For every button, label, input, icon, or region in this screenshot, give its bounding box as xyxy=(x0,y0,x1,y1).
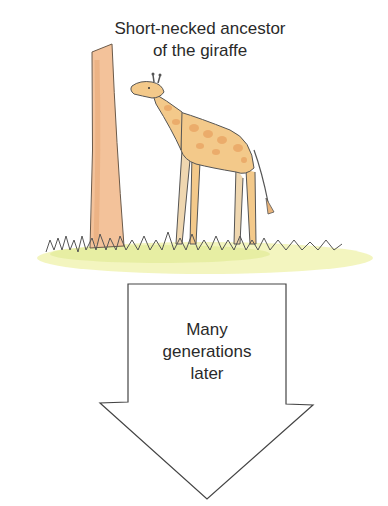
arrow-label-line-2: generations xyxy=(128,341,286,363)
arrow-label-line-3: later xyxy=(128,363,286,385)
giraffe-illustration xyxy=(131,73,274,245)
arrow-label-line-1: Many xyxy=(128,319,286,341)
arrow-label: Many generations later xyxy=(128,319,286,385)
down-arrow xyxy=(100,284,313,499)
illustration xyxy=(0,0,388,506)
tree-trunk xyxy=(90,44,124,248)
